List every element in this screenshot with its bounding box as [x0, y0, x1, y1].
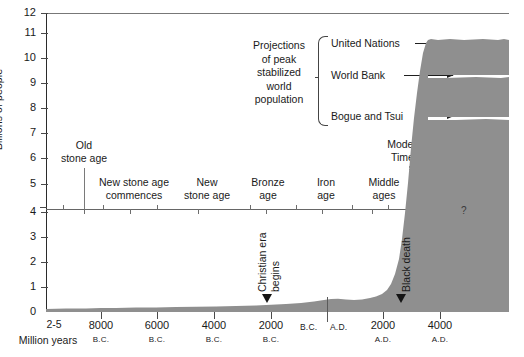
population-history-chart: Billions of people 12 11 10 9 8 7 6 5 4 … — [0, 0, 524, 357]
x-tick-3 — [271, 312, 272, 319]
y-tick-label-5: 5 — [0, 178, 36, 189]
x-label-bc: B.C. — [300, 322, 317, 332]
x-tick-5 — [440, 312, 441, 319]
y-tick-label-4: 4 — [0, 206, 36, 217]
x-label-ad: A.D. — [330, 322, 347, 332]
bc-ad-divider — [327, 297, 328, 322]
x-tick-sublabel-3: B.C. — [236, 336, 306, 344]
y-tick-label-3: 3 — [0, 231, 36, 242]
y-tick-label-8: 8 — [0, 102, 36, 113]
event-marker-black-death — [396, 294, 406, 303]
x-tick-2 — [214, 312, 215, 319]
y-tick-label-12: 12 — [0, 7, 36, 18]
x-tick-1 — [157, 312, 158, 319]
x-tick-4 — [383, 312, 384, 319]
event-label-christian-era: Christian era begins — [256, 232, 281, 292]
y-tick-label-0: 0 — [0, 306, 36, 317]
event-marker-christian-era — [262, 294, 272, 303]
x-tick-label-5: 4000 — [405, 320, 475, 332]
x-tick-sublabel-5: A.D. — [405, 336, 475, 344]
y-tick-label-2: 2 — [0, 256, 36, 267]
y-tick-label-7: 7 — [0, 127, 36, 138]
y-tick-label-11: 11 — [0, 27, 36, 38]
y-tick-label-6: 6 — [0, 152, 36, 163]
y-tick-label-10: 10 — [0, 52, 36, 63]
x-tick-0 — [101, 312, 102, 319]
y-tick-label-9: 9 — [0, 77, 36, 88]
x-tick-label-3: 2000 — [236, 320, 306, 332]
y-tick-label-1: 1 — [0, 281, 36, 292]
event-label-black-death: Black death — [400, 237, 413, 292]
